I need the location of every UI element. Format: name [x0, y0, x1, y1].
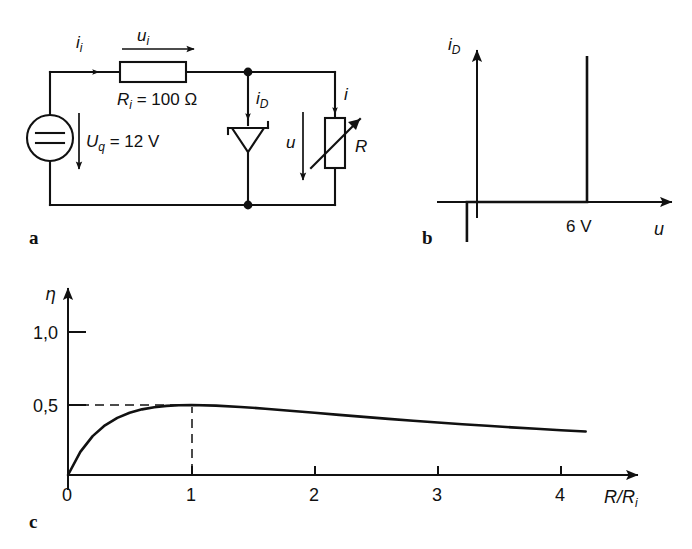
panel-a-circuit: Uq = 12 V Ri = 100 Ω ui ii — [27, 26, 367, 248]
panel-c-chart: 1,0 0,5 0 1 2 3 4 η R/Ri c — [29, 284, 638, 532]
series-resistor-symbol — [120, 62, 186, 82]
panel-c-xlabel-0: 0 — [62, 485, 72, 505]
source-voltage-label: Uq = 12 V — [86, 132, 160, 154]
node-dot-bottom — [244, 201, 253, 210]
panel-c-xlabel-2: 2 — [309, 485, 319, 505]
load-current-label: i — [344, 85, 349, 104]
panel-c-xlabel-3: 3 — [432, 485, 442, 505]
panel-c-efficiency-curve — [68, 405, 586, 475]
panel-b-breakdown-annotation: 6 V — [566, 217, 592, 236]
panel-c-y-axis-label: η — [45, 284, 56, 304]
panel-b-x-axis-label: u — [654, 219, 664, 239]
zener-diode-symbol — [228, 122, 268, 152]
panel-label-b: b — [422, 227, 433, 248]
panel-b-chart: iD u 6 V b — [422, 35, 672, 248]
panel-b-characteristic-curve — [467, 56, 587, 242]
panel-c-xlabel-1: 1 — [186, 485, 196, 505]
panel-c-ylabel-0-5: 0,5 — [33, 396, 58, 416]
panel-b-y-axis-label: iD — [448, 35, 461, 57]
panel-c-ylabel-1-0: 1,0 — [33, 323, 58, 343]
node-dot-top — [244, 68, 253, 77]
diode-current-label: iD — [256, 89, 269, 111]
figure-root: Uq = 12 V Ri = 100 Ω ui ii — [0, 0, 692, 549]
dc-voltage-source-symbol — [27, 115, 73, 161]
panel-c-x-axis-label: R/Ri — [604, 487, 638, 510]
load-resistor-label: R — [355, 137, 367, 156]
panel-label-c: c — [29, 511, 37, 532]
panel-label-a: a — [29, 227, 39, 248]
figure-svg: Uq = 12 V Ri = 100 Ω ui ii — [0, 0, 692, 549]
series-resistor-label: Ri = 100 Ω — [117, 90, 197, 112]
variable-resistor-symbol — [311, 118, 360, 168]
panel-c-xlabel-4: 4 — [555, 485, 565, 505]
input-voltage-label: ui — [137, 26, 149, 48]
load-voltage-label: u — [286, 133, 296, 152]
input-current-label: ii — [76, 33, 83, 55]
